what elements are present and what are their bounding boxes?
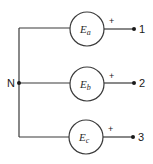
phase-c-branch: Ec + 3: [19, 120, 144, 154]
phase-a-polarity: +: [109, 16, 114, 26]
terminal-1-dot: [132, 27, 136, 31]
terminal-1-label: 1: [139, 23, 145, 35]
phase-c-polarity: +: [108, 124, 113, 134]
neutral-node-dot: [17, 81, 21, 85]
phase-b-polarity: +: [109, 71, 114, 81]
terminal-2-dot: [132, 81, 136, 85]
phase-b-branch: Eb + 2: [19, 67, 145, 101]
terminal-3-label: 3: [138, 131, 144, 143]
phase-a-branch: Ea + 1: [19, 12, 145, 46]
wye-source-diagram: Ea + 1 Eb + 2 Ec + 3 N: [0, 0, 153, 164]
terminal-2-label: 2: [139, 77, 145, 89]
terminal-3-dot: [131, 135, 135, 139]
neutral-label: N: [7, 77, 15, 89]
